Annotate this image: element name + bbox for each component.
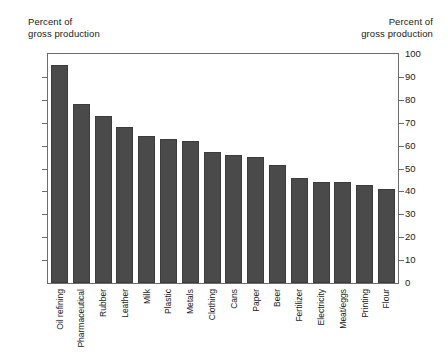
x-axis-label: Printing [360, 289, 369, 318]
left-axis-caption-line1: Percent of [28, 16, 100, 28]
bar [225, 155, 242, 283]
x-axis-label: Leather [121, 289, 130, 318]
x-axis-label-slot: Electricity [313, 289, 330, 355]
y-axis-tickmark-right [399, 191, 404, 192]
x-axis-label: Flour [382, 289, 391, 308]
y-axis-tickmark-right [399, 77, 404, 78]
x-axis-label: Milk [142, 289, 151, 304]
y-axis-tick-label-right: 50 [405, 164, 445, 174]
bar [182, 141, 199, 283]
x-axis-label: Fertilizer [295, 289, 304, 322]
y-axis-tickmark-right [399, 123, 404, 124]
x-axis-label-slot: Leather [116, 289, 133, 355]
y-axis-tickmark-left [42, 260, 47, 261]
y-axis-tickmark-right [399, 146, 404, 147]
bar [291, 178, 308, 283]
y-axis-tick-label-right: 100 [405, 49, 445, 59]
y-axis-tick-label-right: 80 [405, 95, 445, 105]
bar [356, 185, 373, 283]
x-axis-label: Clothing [208, 289, 217, 320]
bar [160, 139, 177, 283]
x-axis-label: Metals [186, 289, 195, 314]
x-axis-label-slot: Flour [378, 289, 395, 355]
x-axis-label-slot: Rubber [95, 289, 112, 355]
left-axis-caption: Percent of gross production [28, 16, 100, 39]
x-axis-label-slot: Oil refining [51, 289, 68, 355]
x-axis-label: Plastic [164, 289, 173, 314]
x-axis-label: Meat/eggs [339, 289, 348, 329]
x-axis-label-slot: Beer [269, 289, 286, 355]
right-axis-caption: Percent of gross production [361, 16, 433, 39]
y-axis-tickmark-left [42, 169, 47, 170]
y-axis-tickmark-left [42, 237, 47, 238]
y-axis-tickmark-left [42, 100, 47, 101]
bar [73, 104, 90, 283]
y-axis-tickmark-right [399, 100, 404, 101]
x-axis-label: Cans [230, 289, 239, 309]
x-axis-label-slot: Metals [182, 289, 199, 355]
bars-container [48, 54, 398, 283]
y-axis-tickmark-left [42, 123, 47, 124]
x-axis-label-slot: Paper [247, 289, 264, 355]
x-axis-label-slot: Meat/eggs [334, 289, 351, 355]
x-axis-labels: Oil refiningPharmaceuticalRubberLeatherM… [48, 289, 398, 355]
y-axis-tickmark-right [399, 214, 404, 215]
right-axis-caption-line1: Percent of [361, 16, 433, 28]
bar [51, 65, 68, 283]
bar [313, 182, 330, 283]
x-axis-label-slot: Printing [356, 289, 373, 355]
y-axis-tickmark-right [399, 169, 404, 170]
y-axis-tickmark-left [42, 146, 47, 147]
bar [138, 136, 155, 283]
y-axis-tick-label-right: 0 [405, 278, 445, 288]
x-axis-label: Paper [251, 289, 260, 312]
x-axis-label-slot: Fertilizer [291, 289, 308, 355]
bar [334, 182, 351, 283]
bar [116, 127, 133, 283]
x-axis-label-slot: Milk [138, 289, 155, 355]
y-axis-tick-label-right: 20 [405, 232, 445, 242]
x-axis-label: Beer [273, 289, 282, 307]
y-axis-tickmark-right [399, 237, 404, 238]
y-axis-tick-label-right: 10 [405, 255, 445, 265]
y-axis-tickmark-left [42, 191, 47, 192]
y-axis-tick-label-right: 30 [405, 209, 445, 219]
y-axis-tickmark-left [42, 214, 47, 215]
y-axis-tick-label-right: 40 [405, 186, 445, 196]
y-axis-tick-label-right: 60 [405, 141, 445, 151]
bar [269, 165, 286, 283]
bar [204, 152, 221, 283]
bar [378, 189, 395, 283]
bar [95, 116, 112, 283]
right-axis-caption-line2: gross production [361, 28, 433, 40]
x-axis-label: Rubber [99, 289, 108, 317]
x-axis-label: Electricity [317, 289, 326, 325]
bar-chart: Percent of gross production Percent of g… [0, 0, 447, 357]
left-axis-caption-line2: gross production [28, 28, 100, 40]
y-axis-tickmark-left [42, 77, 47, 78]
x-axis-label: Oil refining [55, 289, 64, 330]
x-axis-label-slot: Cans [225, 289, 242, 355]
x-axis-label-slot: Plastic [160, 289, 177, 355]
x-axis-label-slot: Pharmaceutical [73, 289, 90, 355]
y-axis-tick-label-right: 90 [405, 72, 445, 82]
x-axis-label-slot: Clothing [204, 289, 221, 355]
y-axis-tickmark-right [399, 260, 404, 261]
x-axis-label: Pharmaceutical [77, 289, 86, 348]
bar [247, 157, 264, 283]
y-axis-tick-label-right: 70 [405, 118, 445, 128]
